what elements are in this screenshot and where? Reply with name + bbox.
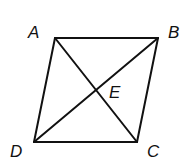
label-e: E	[109, 83, 121, 102]
parallelogram-diagram: A B E D C	[0, 0, 195, 167]
label-b: B	[168, 23, 179, 42]
label-c: C	[147, 142, 160, 161]
label-d: D	[10, 142, 22, 161]
label-a: A	[27, 23, 39, 42]
